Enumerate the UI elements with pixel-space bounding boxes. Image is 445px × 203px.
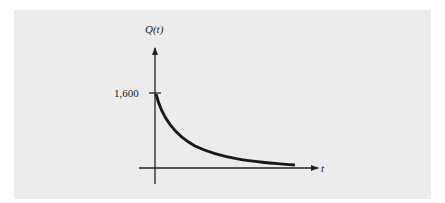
decay-curve xyxy=(156,94,295,165)
y-tick-label: 1,600 xyxy=(114,87,139,99)
x-axis-label: t xyxy=(321,162,325,174)
y-axis-label: Q(t) xyxy=(145,23,164,36)
decay-chart: Q(t) t 1,600 xyxy=(0,0,445,203)
